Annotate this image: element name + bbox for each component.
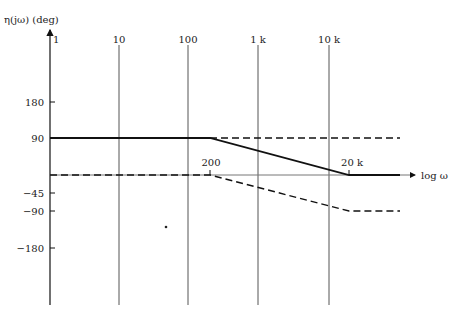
xtick-label-10k: 10 k: [318, 34, 341, 45]
break-label-20k: 20 k: [341, 157, 364, 168]
xtick-label-1: 1: [53, 34, 59, 45]
x-axis-label: log ω: [421, 170, 448, 181]
pole-dashed-line: [50, 175, 400, 211]
ytick-label-180: 180: [25, 97, 44, 108]
ytick-label-neg180: −180: [17, 243, 44, 254]
xtick-label-100: 100: [178, 34, 197, 45]
ytick-label-neg45: −45: [23, 188, 44, 199]
xtick-label-1k: 1 k: [250, 34, 267, 45]
ytick-label-neg90: −90: [23, 206, 44, 217]
ytick-label-90: 90: [31, 133, 44, 144]
marker-dot: [165, 226, 168, 229]
xtick-label-10: 10: [113, 34, 126, 45]
break-label-200: 200: [201, 157, 220, 168]
y-axis-label: η(jω) (deg): [4, 14, 59, 25]
bode-phase-chart: η(jω) (deg) 1 10 100 1 k 10 k 180 90 −45…: [0, 0, 465, 322]
